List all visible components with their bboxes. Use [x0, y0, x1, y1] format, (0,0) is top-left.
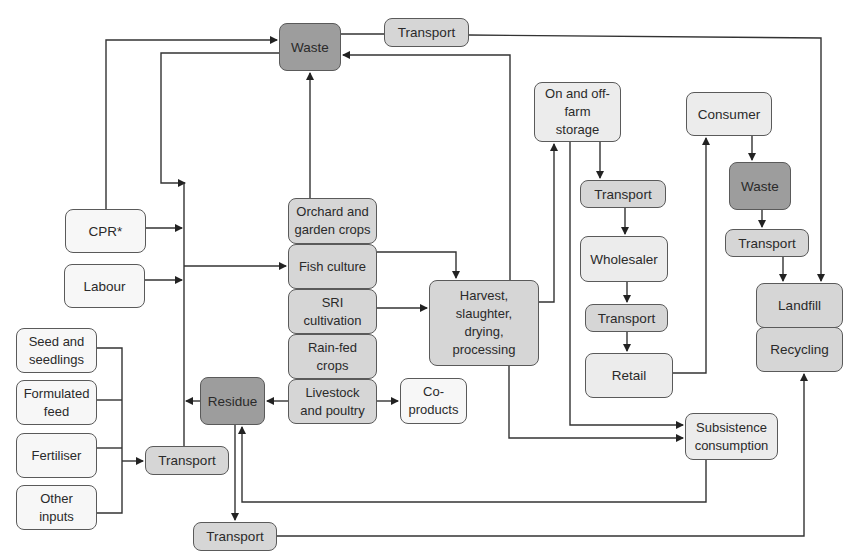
fish-culture-node: Fish culture	[288, 244, 377, 289]
waste-node: Waste	[279, 23, 341, 71]
residue-node: Residue	[200, 377, 265, 425]
coproducts-node: Co- products	[400, 378, 467, 424]
landfill-node: Landfill	[756, 283, 843, 328]
orchard-node: Orchard and garden crops	[288, 198, 377, 244]
recycling-node: Recycling	[756, 327, 843, 372]
wholesaler-node: Wholesaler	[580, 236, 668, 282]
retail-node: Retail	[585, 353, 673, 398]
livestock-node: Livestock and poultry	[288, 379, 377, 424]
rainfed-node: Rain-fed crops	[288, 334, 377, 379]
other-inputs-node: Other inputs	[16, 485, 97, 530]
transport-inputs-node: Transport	[145, 446, 229, 475]
seed-node: Seed and seedlings	[16, 328, 97, 373]
harvest-node: Harvest, slaughter, drying, processing	[429, 280, 539, 366]
flow-diagram: Waste Transport CPR* Labour Seed and see…	[0, 0, 856, 556]
fertiliser-node: Fertiliser	[16, 433, 97, 478]
transport-consumer-node: Transport	[725, 229, 809, 257]
cpr-node: CPR*	[65, 209, 146, 253]
transport-residue-node: Transport	[193, 522, 277, 551]
subsistence-node: Subsistence consumption	[685, 413, 778, 460]
consumer-node: Consumer	[686, 92, 772, 136]
labour-node: Labour	[64, 264, 145, 308]
transport-wholesale-node: Transport	[585, 304, 668, 332]
storage-node: On and off- farm storage	[534, 82, 621, 142]
transport-storage-node: Transport	[580, 180, 666, 208]
transport-node: Transport	[384, 18, 469, 47]
consumer-waste-node: Waste	[729, 162, 791, 210]
sri-node: SRI cultivation	[288, 289, 377, 334]
feed-node: Formulated feed	[16, 380, 97, 425]
